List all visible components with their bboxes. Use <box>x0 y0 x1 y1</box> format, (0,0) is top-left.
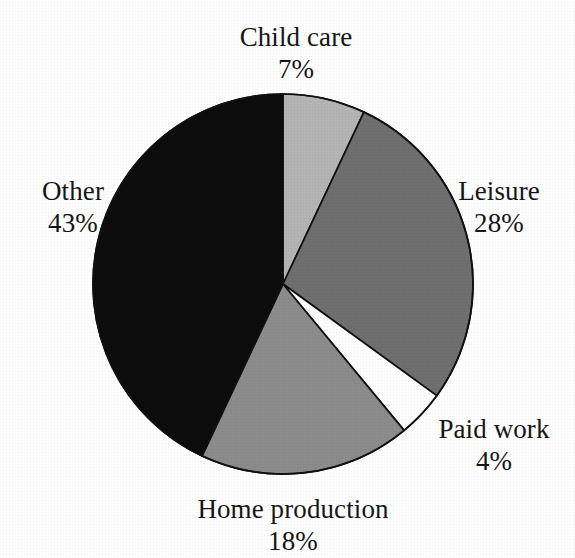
slice-label-child-care-value: 7% <box>206 54 386 86</box>
slice-label-home-production-value: 18% <box>148 526 438 558</box>
slice-label-home-production: Home production 18% <box>148 494 438 558</box>
slice-label-leisure-value: 28% <box>424 208 574 240</box>
slice-label-home-production-name: Home production <box>148 494 438 526</box>
slice-label-paid-work-name: Paid work <box>414 414 574 446</box>
slice-label-paid-work-value: 4% <box>414 446 574 478</box>
slice-label-paid-work: Paid work 4% <box>414 414 574 478</box>
slice-label-other: Other 43% <box>8 176 138 240</box>
slice-label-other-value: 43% <box>8 208 138 240</box>
pie-chart: Child care 7% Leisure 28% Paid work 4% H… <box>0 0 575 558</box>
slice-label-leisure-name: Leisure <box>424 176 574 208</box>
slice-label-other-name: Other <box>8 176 138 208</box>
slice-label-child-care-name: Child care <box>206 22 386 54</box>
slice-label-leisure: Leisure 28% <box>424 176 574 240</box>
slice-label-child-care: Child care 7% <box>206 22 386 86</box>
